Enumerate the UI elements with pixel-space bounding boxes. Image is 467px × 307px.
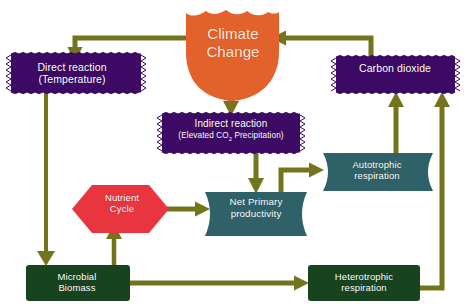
node-heterotrophic-respiration[interactable] <box>308 265 420 301</box>
connector-indirect-to-npp <box>248 152 264 194</box>
connector-microbial-to-heterotrophic <box>130 276 309 291</box>
node-climate-change[interactable] <box>186 10 279 101</box>
node-microbial-biomass[interactable] <box>26 265 130 301</box>
node-direct-reaction[interactable] <box>6 53 146 94</box>
climate-change-flow-diagram <box>0 0 467 307</box>
connector-co2-to-climate <box>271 31 371 60</box>
diagram-canvas: Climate Change Direct reaction (Temperat… <box>0 0 467 307</box>
node-carbon-dioxide[interactable] <box>331 56 460 94</box>
connector-npp-to-autotrophic <box>281 163 324 197</box>
node-nutrient-cycle[interactable] <box>72 185 169 233</box>
node-net-primary-productivity[interactable] <box>205 192 307 236</box>
connector-direct-to-microbial <box>37 92 55 266</box>
node-indirect-reaction[interactable] <box>157 113 305 154</box>
node-autotrophic-respiration[interactable] <box>323 153 433 191</box>
connector-autotrophic-to-co2 <box>388 92 404 155</box>
